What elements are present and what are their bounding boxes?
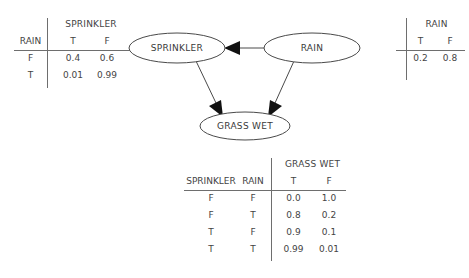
table-row: T T 0.99 0.01 xyxy=(184,241,348,258)
grass-wet-cpt-row2-t: 0.9 xyxy=(277,224,310,241)
sprinkler-cpt-row0-t: 0.4 xyxy=(57,50,89,67)
sprinkler-cpt-span-spacer xyxy=(14,16,47,33)
node-grass-wet[interactable] xyxy=(200,112,290,140)
table-row: T F 0.9 0.1 xyxy=(184,224,348,241)
grass-wet-cpt-condition-header-rain: RAIN xyxy=(238,173,268,190)
table-row: F T 0.8 0.2 xyxy=(184,207,348,224)
grass-wet-cpt-condition-header-sprinkler: SPRINKLER xyxy=(184,173,238,190)
grass-wet-cpt-span-spacer-2 xyxy=(238,156,268,173)
grass-wet-cpt-row1-gap xyxy=(268,207,277,224)
grass-wet-cpt-row2-f: 0.1 xyxy=(310,224,348,241)
sprinkler-cpt-vertical-rule xyxy=(47,18,48,88)
sprinkler-cpt-row1-f: 0.99 xyxy=(89,67,125,84)
sprinkler-cpt-column-t: T xyxy=(57,33,89,50)
table-row: T 0.01 0.99 xyxy=(14,67,125,84)
table-row: F 0.4 0.6 xyxy=(14,50,125,67)
grass-wet-cpt-row0-gap xyxy=(268,190,277,207)
rain-cpt-row0-t: 0.2 xyxy=(407,50,434,67)
node-rain[interactable] xyxy=(264,33,360,63)
grass-wet-cpt-row3-f: 0.01 xyxy=(310,241,348,258)
grass-wet-cpt-row3-rain: T xyxy=(238,241,268,258)
grass-wet-cpt-span-spacer-1 xyxy=(184,156,238,173)
grass-wet-cpt-vertical-rule xyxy=(271,158,272,261)
grass-wet-cpt-row3-gap xyxy=(268,241,277,258)
grass-wet-cpt-column-header-row: SPRINKLER RAIN T F xyxy=(184,173,348,190)
edge-rain-to-sprinkler-arrowhead xyxy=(224,41,240,55)
grass-wet-cpt-row2-rain: F xyxy=(238,224,268,241)
edge-sprinkler-to-grass-wet-line xyxy=(196,61,216,103)
grass-wet-cpt-column-t: T xyxy=(277,173,310,190)
sprinkler-cpt-row1-gap xyxy=(47,67,57,84)
grass-wet-cpt-span-header-row: GRASS WET xyxy=(184,156,348,173)
grass-wet-cpt-grid: GRASS WET SPRINKLER RAIN T F F F 0.0 1.0… xyxy=(184,156,348,258)
rain-cpt-row0-f: 0.8 xyxy=(434,50,466,67)
sprinkler-cpt-row0-f: 0.6 xyxy=(89,50,125,67)
grass-wet-cpt-row3-sprinkler: T xyxy=(184,241,238,258)
grass-wet-cpt-column-f: F xyxy=(310,173,348,190)
node-sprinkler-label: SPRINKLER xyxy=(151,43,203,53)
rain-cpt-vertical-rule xyxy=(406,18,407,80)
edge-rain-to-grass-wet-line xyxy=(275,61,294,103)
grass-wet-cpt-horizontal-rule xyxy=(184,190,346,191)
sprinkler-cpt-horizontal-rule xyxy=(14,50,131,51)
sprinkler-cpt-column-header-row: RAIN T F xyxy=(14,33,125,50)
grass-wet-cpt-row0-sprinkler: F xyxy=(184,190,238,207)
grass-wet-cpt-span-header: GRASS WET xyxy=(277,156,348,173)
table-row: F F 0.0 1.0 xyxy=(184,190,348,207)
grass-wet-cpt-row3-t: 0.99 xyxy=(277,241,310,258)
sprinkler-cpt-span-header: SPRINKLER xyxy=(57,16,125,33)
node-grass-wet-label: GRASS WET xyxy=(217,121,273,131)
sprinkler-cpt-row1-rain: T xyxy=(14,67,47,84)
edge-rain-to-grass-wet-arrowhead xyxy=(268,100,282,117)
edge-sprinkler-to-grass-wet-arrowhead xyxy=(209,100,223,117)
rain-cpt-column-t: T xyxy=(407,33,434,50)
rain-cpt-column-f: F xyxy=(434,33,466,50)
sprinkler-cpt-header-gap xyxy=(47,33,57,50)
rain-cpt-horizontal-rule xyxy=(396,50,465,51)
node-rain-label: RAIN xyxy=(301,43,324,53)
sprinkler-cpt-condition-header: RAIN xyxy=(14,33,47,50)
sprinkler-cpt-row0-gap xyxy=(47,50,57,67)
grass-wet-cpt-header-gap xyxy=(268,173,277,190)
sprinkler-cpt-row0-rain: F xyxy=(14,50,47,67)
grass-wet-cpt-row2-gap xyxy=(268,224,277,241)
sprinkler-cpt-span-header-row: SPRINKLER xyxy=(14,16,125,33)
grass-wet-cpt-row1-t: 0.8 xyxy=(277,207,310,224)
grass-wet-cpt-row0-t: 0.0 xyxy=(277,190,310,207)
sprinkler-cpt-column-f: F xyxy=(89,33,125,50)
grass-wet-cpt-table: GRASS WET SPRINKLER RAIN T F F F 0.0 1.0… xyxy=(184,156,348,258)
node-sprinkler[interactable] xyxy=(129,33,225,63)
grass-wet-cpt-row1-rain: T xyxy=(238,207,268,224)
rain-cpt-span-header: RAIN xyxy=(407,16,466,33)
grass-wet-cpt-row0-f: 1.0 xyxy=(310,190,348,207)
sprinkler-cpt-row1-t: 0.01 xyxy=(57,67,89,84)
diagram-canvas: SPRINKLER RAIN T F F 0.4 0.6 T 0.01 0.99 xyxy=(0,0,469,278)
grass-wet-cpt-row1-sprinkler: F xyxy=(184,207,238,224)
grass-wet-cpt-row1-f: 0.2 xyxy=(310,207,348,224)
grass-wet-cpt-span-gap xyxy=(268,156,277,173)
grass-wet-cpt-row2-sprinkler: T xyxy=(184,224,238,241)
grass-wet-cpt-row0-rain: F xyxy=(238,190,268,207)
sprinkler-cpt-span-gap xyxy=(47,16,57,33)
